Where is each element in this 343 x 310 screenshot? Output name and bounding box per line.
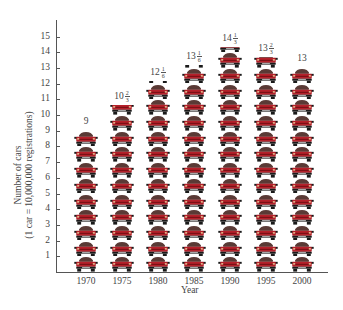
car-icon: [110, 146, 134, 162]
car-icon: [290, 68, 314, 84]
value-label-whole: 12: [150, 67, 160, 77]
car-icon: [110, 162, 134, 178]
car-icon: [290, 194, 314, 210]
value-label-whole: 13: [258, 43, 268, 53]
value-label-fraction: 16: [197, 50, 202, 63]
car-icon: [74, 256, 98, 272]
fraction-denominator: 6: [161, 73, 166, 79]
car-icon: [182, 209, 206, 225]
fraction-numerator: 2: [269, 42, 274, 49]
value-label-fraction: 23: [125, 90, 130, 103]
y-tick-label: 11: [34, 93, 50, 103]
fraction-denominator: 3: [125, 97, 130, 103]
car-icon: [182, 194, 206, 210]
car-icon: [110, 241, 134, 257]
y-tick-mark: [56, 162, 60, 163]
car-icon: [146, 131, 170, 147]
y-tick-mark: [56, 68, 60, 69]
car-icon: [218, 84, 242, 100]
car-icon: [146, 209, 170, 225]
y-tick-label: 5: [34, 188, 50, 198]
value-label: 1316: [174, 50, 214, 63]
y-tick-mark: [56, 37, 60, 38]
car-icon: [290, 162, 314, 178]
car-icon: [290, 146, 314, 162]
partial-car-icon: [218, 47, 242, 52]
value-label: 9: [66, 116, 106, 126]
car-icon: [254, 225, 278, 241]
fraction-numerator: 1: [161, 66, 166, 73]
y-tick-mark: [56, 241, 60, 242]
car-icon: [290, 178, 314, 194]
value-label: 1216: [138, 66, 178, 79]
car-icon: [74, 146, 98, 162]
x-tick-label: 1980: [140, 276, 176, 286]
y-tick-label: 4: [34, 203, 50, 213]
car-icon: [218, 194, 242, 210]
car-icon: [254, 256, 278, 272]
y-tick-mark: [56, 256, 60, 257]
y-tick-label: 15: [34, 31, 50, 41]
car-icon: [254, 115, 278, 131]
car-icon: [110, 225, 134, 241]
x-tick-label: 1995: [248, 276, 284, 286]
y-tick-mark: [56, 115, 60, 116]
car-icon: [254, 84, 278, 100]
value-label-fraction: 13: [233, 32, 238, 45]
car-icon: [74, 225, 98, 241]
value-label-whole: 13: [186, 51, 196, 61]
partial-car-icon: [182, 65, 206, 68]
y-tick-mark: [56, 194, 60, 195]
car-icon: [218, 115, 242, 131]
car-icon: [146, 178, 170, 194]
value-label-whole: 10: [114, 90, 124, 100]
fraction-denominator: 3: [269, 49, 274, 55]
car-icon: [146, 146, 170, 162]
car-icon: [146, 256, 170, 272]
y-tick-mark: [56, 99, 60, 100]
car-icon: [290, 99, 314, 115]
car-icon: [182, 256, 206, 272]
car-icon: [254, 99, 278, 115]
car-icon: [146, 225, 170, 241]
car-icon: [290, 241, 314, 257]
car-icon: [74, 178, 98, 194]
y-tick-label: 1: [34, 250, 50, 260]
car-icon: [182, 99, 206, 115]
car-icon: [254, 178, 278, 194]
car-icon: [74, 209, 98, 225]
value-label-whole: 14: [222, 33, 232, 43]
car-icon: [182, 131, 206, 147]
car-icon: [218, 225, 242, 241]
car-icon: [146, 84, 170, 100]
fraction-numerator: 1: [197, 50, 202, 57]
y-axis-title: Number of cars (1 car = 10,000,000 regis…: [13, 111, 35, 238]
car-icon: [218, 99, 242, 115]
car-icon: [254, 194, 278, 210]
car-icon: [290, 84, 314, 100]
car-icon: [254, 146, 278, 162]
car-icon: [182, 241, 206, 257]
car-icon: [74, 194, 98, 210]
car-icon: [218, 68, 242, 84]
y-tick-label: 14: [34, 46, 50, 56]
value-label: 1323: [246, 42, 286, 55]
car-icon: [182, 225, 206, 241]
fraction-numerator: 1: [233, 32, 238, 39]
y-tick-mark: [56, 52, 60, 53]
pictograph-chart: Number of cars (1 car = 10,000,000 regis…: [0, 0, 343, 310]
car-icon: [182, 68, 206, 84]
x-tick-label: 1990: [212, 276, 248, 286]
x-axis-line: [56, 272, 328, 273]
x-tick-label: 1975: [104, 276, 140, 286]
car-icon: [110, 256, 134, 272]
car-icon: [290, 115, 314, 131]
value-label-whole: 9: [84, 116, 89, 126]
car-icon: [146, 115, 170, 131]
car-icon: [218, 162, 242, 178]
fraction-denominator: 6: [197, 57, 202, 63]
y-tick-label: 8: [34, 140, 50, 150]
fraction-denominator: 3: [233, 39, 238, 45]
car-icon: [218, 52, 242, 68]
y-tick-mark: [56, 131, 60, 132]
